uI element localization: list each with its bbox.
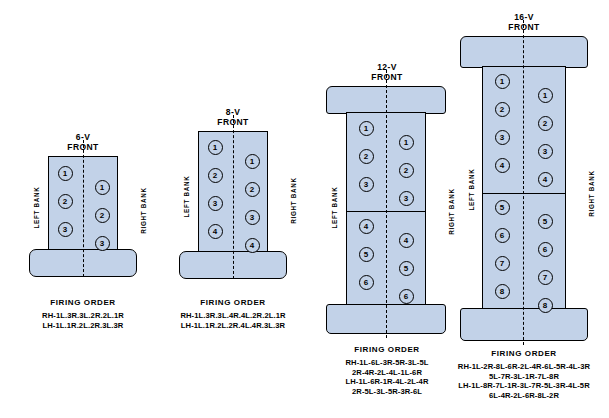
cylinder-right-2: 2 <box>245 182 260 197</box>
cylinder-left-4: 4 <box>359 219 374 234</box>
cylinder-right-2: 2 <box>399 163 414 178</box>
firing-order-line: RH-1L-2R-8L-6R-2L-4R-6L-5R-4L-3R <box>436 362 609 372</box>
cylinder-right-1: 1 <box>538 88 553 103</box>
right-bank-label-16v: RIGHT BANK <box>588 170 595 217</box>
firing-order-line: LH-1L.1R.2L.2R.4L.4R.3L.3R <box>158 321 308 331</box>
cylinder-right-8: 8 <box>538 298 553 313</box>
cylinder-right-3: 3 <box>95 236 110 251</box>
cylinder-left-2: 2 <box>58 194 73 209</box>
cylinder-right-6: 6 <box>538 242 553 257</box>
engine-block-8v: 1 2 3 4 1 2 3 4 LEFT BANK RIGHT BANK <box>158 131 308 281</box>
block-base-16v <box>460 308 588 341</box>
cylinder-left-6: 6 <box>495 228 510 243</box>
center-line-12v <box>386 70 387 338</box>
firing-order-line: LH-1L-8R-7L-1R-3L-7R-5L-3R-4L-5R <box>436 381 609 391</box>
cylinder-right-1: 1 <box>399 135 414 150</box>
cylinder-left-3: 3 <box>359 177 374 192</box>
cylinder-left-3: 3 <box>208 196 223 211</box>
cylinder-right-3: 3 <box>538 144 553 159</box>
center-line-16v <box>523 20 524 345</box>
engine-diagram-8v: 8-V FRONT 1 2 3 4 1 2 3 4 LEFT BANK RIGH… <box>158 107 308 362</box>
firing-order-16v: FIRING ORDER RH-1L-2R-8L-6R-2L-4R-6L-5R-… <box>436 349 609 400</box>
cylinder-right-2: 2 <box>95 208 110 223</box>
cylinder-left-1: 1 <box>208 140 223 155</box>
cylinder-left-1: 1 <box>359 121 374 136</box>
firing-order-line: RH-1L.3R.3L.4R.4L.2R.2L.1R <box>158 311 308 321</box>
cylinder-right-7: 7 <box>538 270 553 285</box>
cylinder-left-2: 2 <box>208 168 223 183</box>
cylinder-right-1: 1 <box>95 180 110 195</box>
block-cap-16v <box>460 36 588 68</box>
cylinder-left-5: 5 <box>495 200 510 215</box>
right-bank-label-8v: RIGHT BANK <box>290 177 297 224</box>
center-line-6v <box>83 140 84 277</box>
engine-block-16v: 1 2 3 4 5 6 7 8 1 2 3 4 5 6 7 8 LEFT BAN… <box>440 36 608 341</box>
firing-order-line: 6L-4R-2L-6R-8L-2R <box>436 391 609 401</box>
cylinder-right-5: 5 <box>399 261 414 276</box>
cylinder-right-5: 5 <box>538 214 553 229</box>
firing-order-title-16v: FIRING ORDER <box>436 349 609 358</box>
cylinder-left-5: 5 <box>359 247 374 262</box>
engine-block-6v: 1 2 3 1 2 3 LEFT BANK RIGHT BANK <box>8 156 158 276</box>
cylinder-right-4: 4 <box>399 233 414 248</box>
cylinder-right-3: 3 <box>245 210 260 225</box>
cylinder-right-3: 3 <box>399 191 414 206</box>
cylinder-left-2: 2 <box>359 149 374 164</box>
cylinder-right-6: 6 <box>399 289 414 304</box>
cylinder-left-3: 3 <box>58 222 73 237</box>
right-bank-label-6v: RIGHT BANK <box>140 187 147 234</box>
cylinder-left-3: 3 <box>495 130 510 145</box>
firing-order-6v: FIRING ORDER RH-1L.3R.3L.2R.2L.1R LH-1L.… <box>8 298 158 330</box>
firing-order-line: LH-1L.1R.2L.2R.3L.3R <box>8 321 158 331</box>
engine-heading-16v: 16-V FRONT <box>440 12 608 32</box>
cylinder-left-2: 2 <box>495 102 510 117</box>
engine-diagram-16v: 16-V FRONT 1 2 3 4 5 6 7 8 1 2 3 4 5 6 <box>440 12 608 412</box>
block-body-16v <box>482 66 566 310</box>
cylinder-left-7: 7 <box>495 256 510 271</box>
cylinder-left-4: 4 <box>495 158 510 173</box>
engine-diagram-6v: 6-V FRONT 1 2 3 1 2 3 LEFT BANK RIGHT BA… <box>8 132 158 362</box>
firing-order-title-8v: FIRING ORDER <box>158 298 308 307</box>
cylinder-left-4: 4 <box>208 224 223 239</box>
firing-order-line: 5L-7R-3L-1R-7L-8R <box>436 372 609 382</box>
cylinder-right-4: 4 <box>538 172 553 187</box>
center-line-8v <box>233 115 234 279</box>
cylinder-right-1: 1 <box>245 154 260 169</box>
left-bank-label-8v: LEFT BANK <box>183 176 190 218</box>
firing-order-8v: FIRING ORDER RH-1L.3R.3L.4R.4L.2R.2L.1R … <box>158 298 308 330</box>
cylinder-left-1: 1 <box>58 166 73 181</box>
block-divider-16v <box>482 193 566 194</box>
firing-order-title-6v: FIRING ORDER <box>8 298 158 307</box>
engine-firing-order-diagram: 6-V FRONT 1 2 3 1 2 3 LEFT BANK RIGHT BA… <box>0 0 609 418</box>
cylinder-right-2: 2 <box>538 116 553 131</box>
firing-order-line: RH-1L.3R.3L.2R.2L.1R <box>8 311 158 321</box>
cylinder-left-8: 8 <box>495 284 510 299</box>
left-bank-label-16v: LEFT BANK <box>468 169 475 211</box>
left-bank-label-6v: LEFT BANK <box>33 187 40 229</box>
cylinder-right-4: 4 <box>245 238 260 253</box>
left-bank-label-12v: LEFT BANK <box>331 187 338 229</box>
cylinder-left-6: 6 <box>359 275 374 290</box>
cylinder-left-1: 1 <box>495 74 510 89</box>
